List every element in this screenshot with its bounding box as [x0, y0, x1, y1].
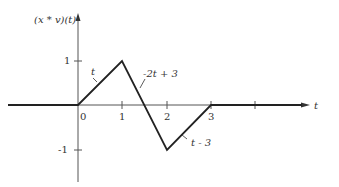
annotation-t-minus-3: t - 3	[191, 137, 211, 148]
y-tick-neg1: -1	[58, 144, 68, 155]
x-tick-1: 1	[119, 111, 125, 122]
annotation-neg2t-plus-3: -2t + 3	[143, 68, 178, 79]
x-tick-2: 2	[164, 111, 170, 122]
annotation-t: t	[91, 66, 96, 77]
x-tick-3: 3	[208, 111, 214, 122]
y-axis-label: (x * v)(t)	[34, 14, 76, 25]
x-axis-arrow-icon	[301, 103, 310, 108]
x-axis-label: t	[314, 100, 319, 111]
convolution-plot: (x * v)(t) t 0 1 2 3 1 -1 t -2t + 3 t - …	[0, 0, 339, 187]
x-tick-0: 0	[80, 111, 86, 122]
y-tick-1: 1	[64, 55, 70, 66]
